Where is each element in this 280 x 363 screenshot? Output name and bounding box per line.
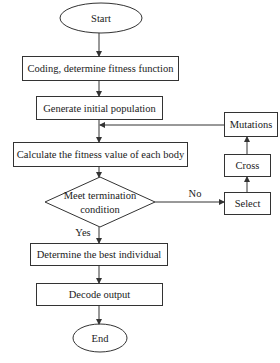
decode-label: Decode output (69, 289, 131, 300)
calculate-label: Calculate the fitness value of each body (17, 149, 185, 160)
yes-label: Yes (75, 227, 90, 238)
flowchart: Start Coding, determine fitness function… (0, 0, 280, 363)
no-label: No (189, 188, 202, 199)
cross-label: Cross (236, 160, 260, 171)
select-label: Select (235, 198, 261, 209)
end-label: End (92, 333, 110, 344)
decision-label-line1: Meet termination (64, 190, 137, 201)
coding-label: Coding, determine fitness function (28, 63, 175, 74)
start-label: Start (91, 13, 111, 24)
mutations-label: Mutations (230, 119, 273, 130)
decision-label-line2: condition (80, 204, 120, 215)
generate-label: Generate initial population (43, 103, 156, 114)
determine-label: Determine the best individual (37, 249, 162, 260)
decision-diamond (45, 177, 155, 227)
